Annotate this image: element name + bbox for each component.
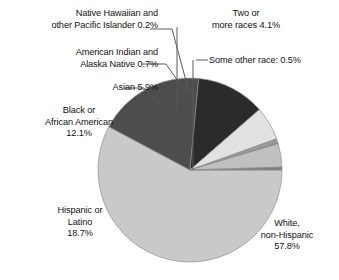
slice-label-white-non-hispanic: White, non-Hispanic 57.8% (240, 218, 334, 253)
slice-label-black-african-american: Black or African American 12.1% (20, 105, 138, 140)
slice-label-asian: Asian 5.9% (28, 82, 158, 94)
slice-label-hispanic-latino: Hispanic or Latino 18.7% (22, 205, 138, 240)
slice-label-american-indian-alaska-native: American Indian and Alaska Native 0.7% (18, 47, 158, 70)
slice-label-native-hawaiian-pacific-islander: Native Hawaiian and other Pacific Island… (8, 8, 158, 31)
slice-label-two-or-more-races: Two or more races 4.1% (190, 8, 302, 31)
slice-label-some-other-race: Some other race: 0.5% (209, 55, 335, 67)
pie-chart-figure: Native Hawaiian and other Pacific Island… (0, 0, 339, 280)
